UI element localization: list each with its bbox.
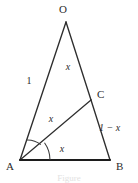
vertex-label-C: C <box>97 88 104 100</box>
segment-OA <box>20 22 66 160</box>
angle-arc-CAB <box>45 143 51 160</box>
vertex-label-B: B <box>116 160 123 172</box>
segment-label-OA: 1 <box>27 75 32 86</box>
segment-label-CB: 1 − x <box>99 122 121 133</box>
figure-caption: Figure <box>57 173 81 183</box>
vertex-label-A: A <box>6 160 14 172</box>
triangle-diagram-svg: O A B C 1 x 1 − x x x Figure <box>0 0 138 183</box>
vertex-label-O: O <box>59 3 67 15</box>
segment-label-AB: x <box>59 143 65 154</box>
segment-label-AC: x <box>48 113 54 124</box>
geometry-figure: O A B C 1 x 1 − x x x Figure <box>0 0 138 183</box>
segment-label-OC: x <box>65 61 71 72</box>
